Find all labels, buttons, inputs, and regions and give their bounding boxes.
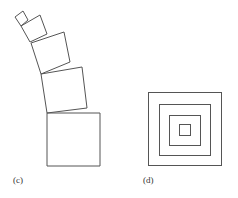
concentric-square-2 xyxy=(160,105,211,156)
concentric-square-4 xyxy=(180,125,191,136)
rotated-square-5 xyxy=(15,11,28,26)
rotated-square-4 xyxy=(21,15,47,42)
panel-c-label: (c) xyxy=(13,175,23,185)
panel-c-rotated-square-stack xyxy=(15,11,100,166)
concentric-square-3 xyxy=(170,116,201,146)
figure-canvas xyxy=(0,0,238,198)
panel-d-label: (d) xyxy=(143,175,154,185)
rotated-square-1 xyxy=(47,113,100,166)
rotated-square-2 xyxy=(41,67,87,113)
panel-d-concentric-squares xyxy=(149,93,222,166)
